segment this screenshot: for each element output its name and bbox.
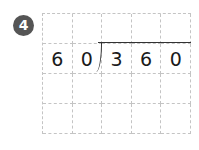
grid-cell-r4c4[interactable] xyxy=(132,104,162,134)
dividend-digit-3: 0 xyxy=(161,44,191,74)
grid-cell-r1c1[interactable] xyxy=(43,14,73,44)
grid-cell-r3c2[interactable] xyxy=(73,74,103,104)
grid-cell-r1c2[interactable] xyxy=(73,14,103,44)
grid-cell-r4c2[interactable] xyxy=(73,104,103,134)
dividend-digit-1: 3 xyxy=(102,44,132,74)
grid-cell-r4c5[interactable] xyxy=(161,104,191,134)
grid-cell-r4c1[interactable] xyxy=(43,104,73,134)
grid-cell-r3c1[interactable] xyxy=(43,74,73,104)
grid-cell-r1c4[interactable] xyxy=(132,14,162,44)
grid-cell-r3c3[interactable] xyxy=(102,74,132,104)
division-grid: 6 0 3 6 0 xyxy=(42,13,191,134)
grid-cell-r1c5[interactable] xyxy=(161,14,191,44)
problem-number-badge: 4 xyxy=(13,15,34,36)
grid-cell-r4c3[interactable] xyxy=(102,104,132,134)
divisor-digit-1: 6 xyxy=(43,44,73,74)
division-bar xyxy=(98,42,191,43)
dividend-digit-2: 6 xyxy=(132,44,162,74)
grid-cell-r3c5[interactable] xyxy=(161,74,191,104)
grid-cell-r1c3[interactable] xyxy=(102,14,132,44)
grid-cell-r3c4[interactable] xyxy=(132,74,162,104)
